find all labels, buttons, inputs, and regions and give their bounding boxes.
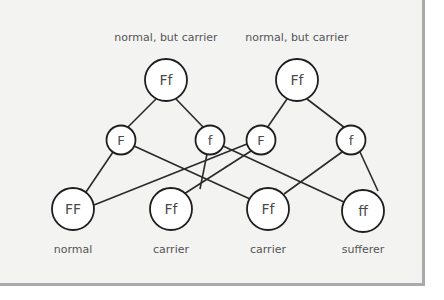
edge-p2-g3 (267, 99, 287, 128)
genetic-cross-diagram: normal, but carrier normal, but carrier … (0, 0, 444, 300)
gamete-1-allele: F (117, 133, 124, 148)
offspring-4-genotype: ff (358, 203, 368, 219)
offspring-1-label: normal (54, 243, 93, 256)
edge-p1-g2 (176, 99, 204, 128)
offspring-node-1: FF (52, 188, 94, 230)
gamete-2-allele: f (208, 133, 213, 148)
parent-node-1: Ff (145, 59, 187, 101)
offspring-2-genotype: Ff (165, 201, 179, 217)
gamete-node-1: F (107, 126, 136, 155)
gamete-3-allele: F (257, 133, 264, 148)
edge-p2-g4 (307, 99, 345, 128)
edge-g1-o3 (134, 146, 250, 199)
edge-p1-g1 (127, 99, 156, 128)
parent-2-label: normal, but carrier (245, 31, 349, 44)
offspring-2-label: carrier (153, 243, 189, 256)
parent-node-2: Ff (276, 59, 318, 101)
gamete-4-allele: f (349, 133, 354, 148)
edge-g4-o4b (360, 152, 378, 191)
gamete-node-3: F (247, 126, 276, 155)
offspring-node-3: Ff (247, 188, 289, 230)
parent-2-genotype: Ff (291, 72, 305, 88)
offspring-4-label: sufferer (342, 243, 385, 256)
parent-1-label: normal, but carrier (114, 31, 218, 44)
gamete-node-2: f (196, 126, 225, 155)
parent-1-genotype: Ff (160, 72, 174, 88)
edge-g3-o2 (184, 151, 251, 194)
offspring-1-genotype: FF (65, 201, 81, 217)
edge-g1-o1 (86, 152, 113, 192)
offspring-3-label: carrier (250, 243, 286, 256)
offspring-node-4: ff (342, 190, 384, 232)
offspring-node-2: Ff (150, 188, 192, 230)
offspring-3-genotype: Ff (262, 201, 276, 217)
gamete-node-4: f (337, 126, 366, 155)
